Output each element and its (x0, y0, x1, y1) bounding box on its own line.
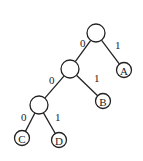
edge-label: 1 (115, 39, 121, 51)
edge-n2-D (43, 113, 55, 134)
internal-node (61, 60, 79, 78)
node-label: A (120, 65, 128, 77)
node-label: B (99, 96, 106, 108)
edge-label: 1 (55, 111, 61, 123)
edge-label: 0 (21, 111, 27, 123)
huffman-tree-diagram: 010101 ABCD (0, 0, 143, 161)
node-label: C (18, 133, 25, 145)
node-label: D (55, 135, 63, 147)
edge-n1-n2 (45, 76, 64, 98)
edge-label: 1 (94, 72, 100, 84)
edge-n2-C (25, 113, 34, 131)
edge-label: 0 (49, 74, 55, 86)
edge-label: 0 (80, 37, 86, 49)
internal-node (87, 24, 105, 42)
internal-node (30, 96, 48, 114)
